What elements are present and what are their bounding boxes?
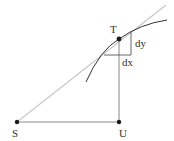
tangent-line [17, 5, 166, 122]
diagram-canvas: T dy dx S U [0, 0, 174, 141]
label-u: U [119, 127, 127, 139]
point-t [117, 37, 122, 42]
label-t: T [110, 23, 117, 35]
label-dx: dx [122, 56, 134, 68]
label-dy: dy [135, 37, 147, 49]
point-u [117, 120, 121, 124]
curve [86, 20, 167, 82]
point-s [15, 120, 19, 124]
label-s: S [12, 127, 18, 139]
